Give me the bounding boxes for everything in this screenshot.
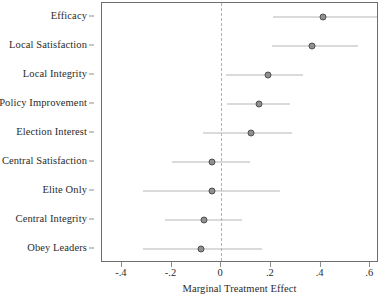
estimate-point-marker	[208, 187, 215, 194]
x-axis-tick-label: .4	[316, 268, 324, 279]
x-axis-tick-label: -.2	[165, 268, 176, 279]
estimate-point-marker	[198, 245, 205, 252]
x-axis: Marginal Treatment Effect -.4-.20.2.4.6	[101, 262, 378, 298]
y-axis-tick-mark	[89, 160, 94, 161]
coefficient-plot-figure: EfficacyLocal SatisfactionLocal Integrit…	[0, 0, 386, 298]
estimate-point-marker	[247, 130, 254, 137]
y-axis-tick-label: Local Integrity	[23, 69, 87, 80]
y-axis-tick-label: Election Interest	[16, 127, 87, 138]
x-axis-tick-label: .2	[266, 268, 274, 279]
y-axis-tick-mark	[89, 247, 94, 248]
y-axis-tick-label: Policy Improvement	[0, 98, 87, 109]
y-axis-category-labels: EfficacyLocal SatisfactionLocal Integrit…	[0, 0, 96, 262]
y-axis-tick-label: Elite Only	[43, 185, 87, 196]
y-axis-tick-mark	[89, 74, 94, 75]
x-axis-title: Marginal Treatment Effect	[101, 284, 378, 295]
x-axis-tick-label: .6	[365, 268, 373, 279]
y-axis-tick-mark	[89, 189, 94, 190]
y-axis-tick-mark	[89, 16, 94, 17]
y-axis-tick-label: Central Satisfaction	[2, 156, 87, 167]
y-axis-tick-label: Central Integrity	[16, 213, 87, 224]
y-axis-tick-mark	[89, 218, 94, 219]
estimate-point-marker	[308, 43, 315, 50]
y-axis-tick-label: Obey Leaders	[27, 242, 87, 253]
y-axis-tick-mark	[89, 132, 94, 133]
estimate-point-marker	[320, 14, 327, 21]
x-axis-tick-label: -.4	[115, 268, 126, 279]
y-axis-tick-label: Local Satisfaction	[9, 40, 87, 51]
y-axis-tick-mark	[89, 103, 94, 104]
estimate-point-marker	[201, 216, 208, 223]
estimate-point-marker	[256, 101, 263, 108]
plot-area	[101, 2, 378, 262]
estimate-point-marker	[208, 158, 215, 165]
y-axis-tick-mark	[89, 45, 94, 46]
x-axis-tick-label: 0	[218, 268, 223, 279]
y-axis-tick-label: Efficacy	[51, 11, 87, 22]
estimate-point-marker	[265, 72, 272, 79]
